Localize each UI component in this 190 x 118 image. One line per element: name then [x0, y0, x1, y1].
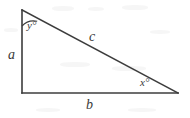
triangle-side-c-line — [22, 10, 178, 93]
angle-label-y: y° — [27, 20, 36, 31]
triangle-figure: a b c y° x° — [0, 0, 190, 118]
angle-label-x: x° — [140, 77, 149, 88]
side-label-a: a — [8, 48, 15, 62]
side-label-b: b — [86, 98, 93, 112]
side-label-c: c — [89, 30, 95, 44]
triangle-drawing — [0, 0, 190, 118]
